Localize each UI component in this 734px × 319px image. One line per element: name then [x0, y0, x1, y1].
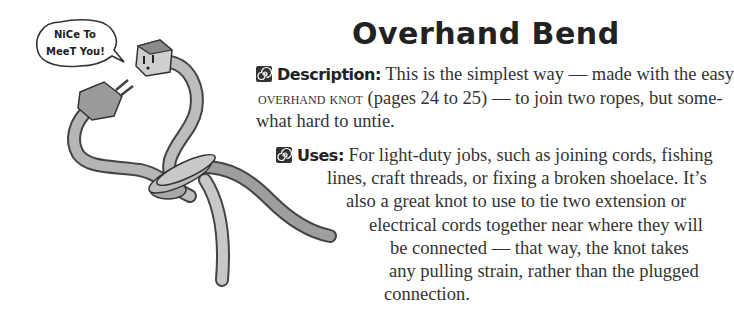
description-label: Description:: [277, 65, 381, 84]
uses-line-6: any pulling strain, rather than the plug…: [389, 260, 699, 282]
spiral-icon: [276, 147, 292, 163]
speech-bubble-line-2: MeeT You!: [46, 46, 105, 57]
page-title: Overhand Bend: [352, 16, 620, 51]
description-line-3: what hard to untie.: [256, 110, 395, 132]
speech-bubble-line-1: NiCe To: [54, 29, 96, 40]
uses-line-4: electrical cords together near where the…: [369, 214, 703, 236]
description-line-2: overhand knot (pages 24 to 25) — to join…: [258, 87, 723, 110]
overhand-knot-reference: overhand knot: [258, 89, 363, 108]
description-line-1: Description: This is the simplest way — …: [256, 63, 734, 86]
uses-label: Uses:: [297, 146, 344, 165]
speech-bubble: NiCe To MeeT You!: [37, 20, 124, 67]
uses-line-2: lines, craft threads, or fixing a broken…: [327, 167, 707, 189]
uses-line-7: connection.: [384, 283, 470, 305]
uses-line-3: also a great knot to use to tie two exte…: [346, 190, 686, 212]
male-plug-icon: [74, 80, 160, 178]
spiral-icon: [256, 66, 272, 82]
overhand-bend-knot: [145, 149, 330, 280]
uses-line-1: Uses: For light-duty jobs, such as joini…: [276, 144, 713, 167]
uses-line-5: be connected — that way, the knot takes: [390, 237, 689, 259]
